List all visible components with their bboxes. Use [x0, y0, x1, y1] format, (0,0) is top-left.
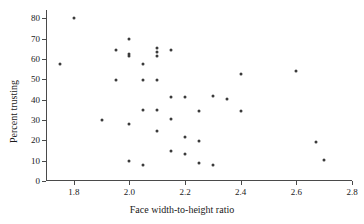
x-tick-label: 2.4: [235, 188, 246, 197]
plot-area: 01020304050607080 1.82.02.22.42.62.8: [46, 10, 352, 181]
data-point: [72, 17, 75, 20]
y-tick-mark: [42, 39, 46, 40]
data-point: [114, 48, 117, 51]
x-tick-label: 2.0: [124, 188, 135, 197]
y-tick-label: 80: [31, 14, 40, 23]
data-point: [142, 79, 145, 82]
data-point: [225, 97, 228, 100]
data-point: [128, 55, 131, 58]
x-axis-line: [46, 180, 352, 181]
x-tick-label: 2.6: [291, 188, 302, 197]
scatter-plot-figure: 01020304050607080 1.82.02.22.42.62.8 Per…: [0, 0, 364, 224]
x-tick-label: 2.8: [346, 188, 357, 197]
data-point: [323, 159, 326, 162]
data-point: [170, 48, 173, 51]
data-point: [184, 136, 187, 139]
x-axis-label: Face width-to-height ratio: [0, 204, 364, 215]
data-point: [128, 38, 131, 41]
y-tick-label: 40: [31, 95, 40, 104]
data-point: [295, 70, 298, 73]
y-tick-label: 30: [31, 115, 40, 124]
y-axis-line: [46, 10, 47, 181]
y-tick-mark: [42, 59, 46, 60]
data-point: [156, 109, 159, 112]
y-tick-mark: [42, 18, 46, 19]
data-point: [142, 163, 145, 166]
data-point: [128, 123, 131, 126]
x-tick-mark: [185, 181, 186, 185]
x-tick-mark: [296, 181, 297, 185]
y-tick-label: 70: [31, 34, 40, 43]
y-tick-mark: [42, 100, 46, 101]
y-tick-mark: [42, 181, 46, 182]
data-point: [156, 129, 159, 132]
x-tick-mark: [129, 181, 130, 185]
x-tick-label: 1.8: [68, 188, 79, 197]
x-tick-mark: [74, 181, 75, 185]
data-point: [156, 51, 159, 54]
data-point: [198, 162, 201, 165]
data-point: [114, 79, 117, 82]
data-point: [184, 152, 187, 155]
data-point: [156, 55, 159, 58]
data-point: [142, 109, 145, 112]
y-tick-mark: [42, 161, 46, 162]
data-point: [198, 109, 201, 112]
data-point: [239, 109, 242, 112]
data-point: [128, 160, 131, 163]
y-tick-label: 10: [31, 156, 40, 165]
data-point: [211, 164, 214, 167]
data-point: [239, 73, 242, 76]
y-tick-label: 20: [31, 136, 40, 145]
y-tick-label: 0: [36, 177, 41, 186]
data-point: [156, 47, 159, 50]
y-tick-label: 50: [31, 75, 40, 84]
data-point: [314, 141, 317, 144]
data-point: [170, 95, 173, 98]
y-axis-label: Percent trusting: [8, 47, 19, 177]
data-point: [58, 62, 61, 65]
y-tick-mark: [42, 79, 46, 80]
y-tick-mark: [42, 120, 46, 121]
y-tick-label: 60: [31, 54, 40, 63]
data-point: [156, 79, 159, 82]
data-point: [100, 119, 103, 122]
data-point: [170, 150, 173, 153]
y-tick-mark: [42, 140, 46, 141]
data-point: [184, 95, 187, 98]
data-point: [170, 117, 173, 120]
x-tick-label: 2.2: [179, 188, 190, 197]
data-point: [198, 140, 201, 143]
x-tick-mark: [352, 181, 353, 185]
data-point: [211, 94, 214, 97]
x-tick-mark: [241, 181, 242, 185]
data-point: [142, 62, 145, 65]
